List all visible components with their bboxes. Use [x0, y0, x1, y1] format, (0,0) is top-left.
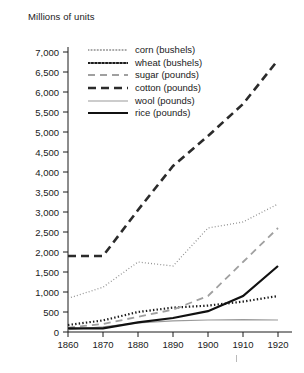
legend-swatch-icon — [88, 83, 128, 93]
chart-legend: corn (bushels)wheat (bushels)sugar (poun… — [88, 44, 220, 120]
legend-swatch-icon — [88, 70, 128, 80]
y-tick-label: 6,500 — [35, 67, 59, 78]
y-tick-label: 2,000 — [35, 247, 59, 258]
legend-label: wheat (bushels) — [135, 58, 202, 68]
y-axis-ticks: 05001,0001,5002,0002,5003,0003,5004,0004… — [35, 47, 68, 338]
legend-swatch-icon — [88, 96, 128, 106]
y-tick-label: 500 — [43, 307, 59, 318]
y-tick-label: 3,000 — [35, 207, 59, 218]
legend-label: sugar (pounds) — [135, 70, 199, 80]
legend-item-wool[interactable]: wool (pounds) — [88, 94, 220, 107]
x-tick-label: 1910 — [232, 339, 253, 350]
y-tick-label: 1,500 — [35, 267, 59, 278]
y-tick-label: 4,500 — [35, 147, 59, 158]
y-tick-label: 5,500 — [35, 107, 59, 118]
legend-item-rice[interactable]: rice (pounds) — [88, 107, 220, 120]
stray-mark — [236, 355, 237, 362]
legend-swatch-icon — [88, 108, 128, 118]
y-tick-label: 2,500 — [35, 227, 59, 238]
y-tick-label: 7,000 — [35, 47, 59, 58]
x-tick-label: 1890 — [162, 339, 183, 350]
chart-root: Millions of units 05001,0001,5002,0002,5… — [0, 0, 304, 373]
x-tick-label: 1880 — [127, 339, 148, 350]
y-tick-label: 5,000 — [35, 127, 59, 138]
legend-swatch-icon — [88, 58, 128, 68]
x-tick-label: 1870 — [92, 339, 113, 350]
series-line-sugar — [68, 228, 278, 328]
legend-label: cotton (pounds) — [135, 83, 201, 93]
series-line-corn — [68, 204, 278, 298]
x-tick-label: 1920 — [267, 339, 288, 350]
y-tick-label: 3,500 — [35, 187, 59, 198]
y-tick-label: 0 — [54, 327, 59, 338]
legend-label: rice (pounds) — [135, 108, 190, 118]
legend-item-wheat[interactable]: wheat (bushels) — [88, 57, 220, 70]
legend-swatch-icon — [88, 45, 128, 55]
legend-item-sugar[interactable]: sugar (pounds) — [88, 69, 220, 82]
legend-item-cotton[interactable]: cotton (pounds) — [88, 82, 220, 95]
x-axis-ticks: 1860187018801890190019101920 — [57, 332, 288, 350]
x-tick-label: 1860 — [57, 339, 78, 350]
legend-label: wool (pounds) — [135, 96, 195, 106]
x-tick-label: 1900 — [197, 339, 218, 350]
legend-label: corn (bushels) — [135, 45, 195, 55]
y-tick-label: 6,000 — [35, 87, 59, 98]
legend-item-corn[interactable]: corn (bushels) — [88, 44, 220, 57]
y-tick-label: 4,000 — [35, 167, 59, 178]
y-tick-label: 1,000 — [35, 287, 59, 298]
